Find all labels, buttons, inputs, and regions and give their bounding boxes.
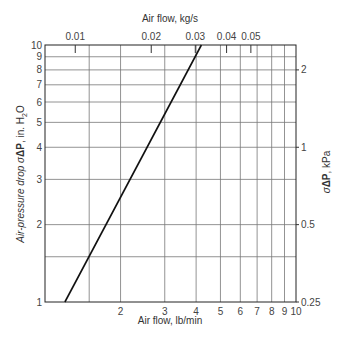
top-tick-label: 0.03 [186,31,206,42]
right-tick-label: 1 [301,142,307,153]
y-tick-label: 6 [36,97,42,108]
right-axis-title: σΔP, kPa [321,150,332,193]
x-axis-title: Air flow, lb/min [138,315,202,326]
y-axis-title: Air-pressure drop σΔP, in. H2O [15,105,28,244]
top-tick-label: 0.05 [241,31,261,42]
top-axis-title: Air flow, kg/s [142,13,198,24]
y-tick-label: 5 [36,117,42,128]
top-tick-label: 0.04 [217,31,237,42]
x-tick-label: 8 [269,306,275,317]
x-tick-label: 2 [118,306,124,317]
top-axis-ticks: 0.010.020.030.040.05 [66,31,262,53]
plot-frame [45,45,296,302]
x-tick-label: 9 [282,306,288,317]
x-tick-label: 10 [290,306,302,317]
pressure-drop-chart: 2345678910 12345678910 0.010.020.030.040… [0,0,342,342]
right-tick-label: 2 [301,64,307,75]
y-tick-label: 1 [36,297,42,308]
y-axis-ticks: 12345678910 [31,40,43,308]
x-tick-label: 5 [218,306,224,317]
y-tick-label: 4 [36,142,42,153]
x-tick-label: 6 [238,306,244,317]
right-tick-label: 0.5 [301,219,315,230]
pressure-drop-line [65,45,202,302]
y-tick-label: 10 [31,40,43,51]
right-tick-label: 0.25 [301,297,321,308]
top-tick-label: 0.01 [66,31,86,42]
y-tick-label: 3 [36,174,42,185]
y-tick-label: 8 [36,64,42,75]
right-axis-ticks: 0.250.512 [296,64,321,307]
x-tick-label: 7 [254,306,260,317]
y-tick-label: 9 [36,51,42,62]
y-tick-label: 2 [36,219,42,230]
top-tick-label: 0.02 [142,31,162,42]
grid [45,45,296,302]
y-tick-label: 7 [36,79,42,90]
